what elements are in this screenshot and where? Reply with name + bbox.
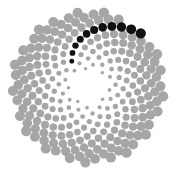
spiral-dot: [78, 52, 83, 57]
spiral-dot: [136, 45, 145, 54]
spiral-dot: [126, 92, 132, 98]
spiral-dot: [80, 157, 90, 167]
spiral-dot: [124, 78, 130, 84]
spiral-dot: [98, 105, 102, 109]
spiral-dot: [67, 86, 71, 90]
spiral-dot: [99, 8, 109, 18]
spiral-dot: [153, 107, 163, 117]
spiral-dot: [36, 69, 43, 76]
spiral-dot: [50, 123, 58, 131]
spiral-dot: [96, 55, 101, 60]
spiral-dot: [87, 38, 94, 45]
spiral-dot: [109, 97, 113, 101]
spiral-dot: [50, 106, 56, 112]
spiral-dot: [108, 58, 113, 63]
spiral-dot: [56, 82, 61, 87]
spiral-dot: [69, 113, 74, 118]
spiral-dot: [123, 114, 130, 121]
spiral-dot: [129, 98, 136, 105]
spiral-dot: [73, 69, 77, 73]
spiral-dot: [72, 8, 82, 18]
spiral-dot: [31, 80, 39, 88]
spiral-dot: [90, 154, 100, 164]
spiral-dot: [58, 99, 63, 104]
spiral-dot: [117, 75, 122, 80]
spiral-dot: [133, 53, 141, 61]
spiral-dot: [84, 67, 87, 70]
highlight-dot: [72, 42, 78, 48]
spiral-dot: [98, 114, 103, 119]
spiral-dot: [33, 52, 41, 60]
spiral-dot: [48, 17, 58, 27]
spiral-dot: [87, 119, 92, 124]
spiral-dot: [119, 39, 127, 47]
spiral-dot: [131, 72, 138, 79]
spiral-dot: [106, 133, 114, 141]
spiral-dot: [100, 128, 107, 135]
spiral-dot: [61, 115, 67, 121]
spiral-dot: [61, 59, 66, 64]
spiral-dot: [131, 106, 138, 113]
spiral-dot: [52, 89, 57, 94]
spiral-dot: [65, 36, 72, 43]
spiral-dot: [119, 30, 128, 39]
highlight-dot: [70, 50, 76, 56]
spiral-dot: [130, 82, 137, 89]
spiral-dot: [101, 98, 104, 101]
spiral-dot: [42, 103, 49, 110]
spiral-dot: [66, 131, 73, 138]
spiral-dot: [113, 119, 120, 126]
spiral-dot: [84, 133, 91, 140]
spiral-dot: [36, 87, 43, 94]
spiral-dot: [39, 77, 46, 84]
spiral-dot: [103, 50, 109, 56]
spiral-dot: [21, 126, 31, 136]
spiral-dot: [111, 126, 118, 133]
spiral-dot: [67, 105, 72, 110]
spiral-dot: [56, 71, 61, 76]
spiral-dot: [115, 93, 120, 98]
spiral-dot: [152, 49, 162, 59]
highlight-dot: [136, 28, 146, 38]
spiral-dot: [48, 131, 56, 139]
spiral-dot: [68, 98, 72, 102]
spiral-dot: [91, 63, 95, 67]
highlight-dot: [117, 22, 126, 31]
spiral-dot: [52, 63, 58, 69]
spiral-dot: [50, 76, 56, 82]
spiral-dot: [41, 121, 49, 129]
spiral-dot: [8, 86, 18, 96]
spiral-dot: [125, 68, 131, 74]
spiral-dot: [64, 68, 68, 72]
spiral-dot: [45, 69, 51, 75]
spiral-dot: [134, 89, 141, 96]
spiral-dot: [65, 153, 75, 163]
spiral-dot: [131, 114, 139, 122]
highlight-dot: [69, 59, 74, 64]
spiral-dot: [15, 111, 25, 121]
spiral-dot: [96, 43, 102, 49]
spiral-dot: [137, 77, 145, 85]
spiral-dot: [57, 132, 65, 140]
spiral-dot: [43, 61, 50, 68]
spiral-dot: [76, 108, 80, 112]
spiral-dot: [113, 82, 118, 87]
highlight-dot: [107, 22, 116, 31]
spiral-dot: [41, 143, 51, 153]
spiral-dot: [95, 121, 101, 127]
spiral-dot: [121, 147, 131, 157]
spiral-dot: [45, 84, 51, 90]
spiral-dot: [30, 132, 40, 142]
spiral-dot: [144, 120, 154, 130]
spiral-dot: [117, 66, 123, 72]
spiral-dot: [110, 30, 118, 38]
phyllotaxis-diagram: [0, 0, 174, 179]
spiral-dot: [118, 48, 125, 55]
spiral-dot: [128, 139, 138, 149]
spiral-dot: [106, 152, 116, 162]
spiral-dot: [158, 91, 168, 101]
spiral-dot: [108, 88, 112, 92]
spiral-dot: [94, 34, 101, 41]
spiral-dot: [90, 128, 97, 135]
spiral-dot: [61, 91, 65, 95]
